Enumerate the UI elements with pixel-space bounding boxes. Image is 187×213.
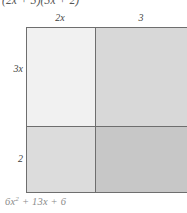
row-label-2: 2: [2, 153, 23, 164]
cell-top-left: [27, 28, 95, 126]
area-model-grid: [26, 27, 187, 193]
cell-bottom-right: [95, 126, 187, 192]
column-label-3: 3: [95, 12, 187, 23]
column-label-2x: 2x: [26, 12, 94, 23]
problem-expression: (2x + 3)(3x + 2): [2, 0, 187, 8]
area-model-figure: (2x + 3)(3x + 2) 2x 3 3x 2 6x2 + 13x + 6: [0, 0, 187, 213]
answer-expression: 6x2 + 13x + 6: [5, 196, 66, 207]
cell-top-right: [95, 28, 187, 126]
row-label-3x: 3x: [2, 63, 23, 74]
cell-bottom-left: [27, 126, 95, 192]
